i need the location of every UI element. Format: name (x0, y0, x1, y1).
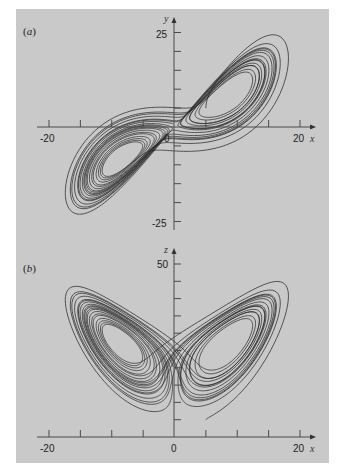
lorenz-figure: (a) -20 0 20 x 25 -25 y (b) -20 0 20 x 5… (0, 0, 341, 474)
figure-background (16, 9, 329, 463)
z-axis-label: z (163, 244, 168, 255)
x-tick-label-minus20-b: -20 (40, 443, 55, 454)
y-tick-label-25: 25 (156, 29, 168, 40)
x-tick-label-0-b: 0 (171, 443, 177, 454)
x-axis-label-a: x (309, 133, 315, 144)
y-tick-label-minus25: -25 (152, 218, 167, 229)
y-axis-label: y (163, 13, 169, 24)
x-tick-label-20-a: 20 (293, 133, 305, 144)
panel-label-a: (a) (23, 25, 36, 38)
x-axis-label-b: x (309, 443, 315, 454)
z-tick-label-50: 50 (157, 259, 169, 270)
x-tick-label-0-a: 0 (164, 133, 170, 144)
panel-label-b: (b) (23, 262, 36, 275)
x-tick-label-20-b: 20 (293, 443, 305, 454)
x-tick-label-minus20-a: -20 (40, 133, 55, 144)
